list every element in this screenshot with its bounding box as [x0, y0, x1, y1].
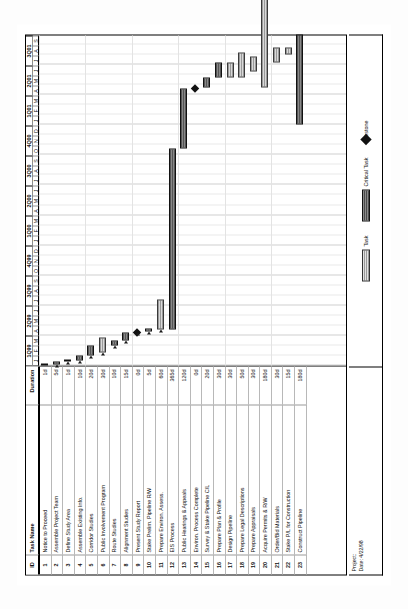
row-id: 14	[191, 554, 203, 574]
table-row[interactable]: 17Design Pipeline30d	[226, 366, 238, 574]
table-row[interactable]: 22Stake P/L for Construction15d	[283, 366, 295, 574]
row-task-name: Assemble Project Team	[52, 404, 64, 554]
table-row[interactable]: 19Prepare Appraisals30d	[249, 366, 261, 574]
gantt-bar[interactable]	[122, 332, 129, 340]
gridline-horizontal	[85, 35, 86, 365]
row-task-name: Survey & Stake Pipeline C/L	[202, 404, 214, 554]
legend-label-task: Task	[363, 235, 369, 246]
table-row[interactable]: 1Notice to Proceed1d	[40, 366, 52, 574]
gantt-bar[interactable]	[296, 34, 303, 124]
table-row[interactable]: 13Public Hearings & Appeals120d	[179, 366, 191, 574]
gantt-bar[interactable]	[285, 47, 292, 55]
row-id: 22	[283, 554, 295, 574]
row-duration: 30d	[249, 366, 261, 404]
row-id: 5	[86, 554, 98, 574]
table-row[interactable]: 6Public Involvement Program30d	[98, 366, 110, 574]
row-id: 3	[63, 554, 75, 574]
critical-task-bar-swatch	[362, 189, 370, 221]
gantt-bar[interactable]	[169, 148, 176, 329]
chart-area: ID Task Name Duration 1Notice to Proceed…	[25, 34, 347, 575]
row-duration: 365d	[168, 366, 180, 404]
table-body: 1Notice to Proceed1d2Assemble Project Te…	[40, 366, 307, 574]
legend-item-critical-task: Critical Task	[362, 157, 370, 221]
gantt-bar[interactable]	[250, 56, 257, 71]
row-task-name: Order/Bid Materials	[272, 404, 284, 554]
page-frame: ID Task Name Duration 1Notice to Proceed…	[0, 0, 408, 609]
project-info: Project: Date: 4/22/98	[349, 366, 382, 574]
task-bar-swatch	[362, 249, 370, 281]
row-id: 6	[98, 554, 110, 574]
table-row[interactable]: 23Construct Pipeline180d	[295, 366, 307, 574]
dependency-arrow	[101, 352, 105, 355]
project-label: Project:	[351, 370, 358, 571]
row-duration: 120d	[179, 366, 191, 404]
gantt-bar[interactable]	[261, 0, 268, 87]
row-duration: 20d	[86, 366, 98, 404]
table-row[interactable]: 9Present Study Report0d	[133, 366, 145, 574]
table-row[interactable]: 7Route Studies10d	[110, 366, 122, 574]
table-row[interactable]: 11Prepare Environ. Assess.60d	[156, 366, 168, 574]
table-header-row: ID Task Name Duration	[26, 366, 40, 574]
timeline: 1Q992Q993Q994Q991Q002Q003Q004Q001Q012Q01…	[26, 35, 346, 365]
row-id: 9	[133, 554, 145, 574]
gantt-bar[interactable]	[157, 299, 164, 329]
dependency-arrow	[66, 361, 70, 364]
legend-item-milestone: Milestone	[363, 120, 369, 143]
table-row[interactable]: 20Acquire Permits & R/W180d	[260, 366, 272, 574]
row-task-name: Define Study Area	[63, 404, 75, 554]
gridline-horizontal	[178, 35, 179, 365]
gantt-bar[interactable]	[87, 345, 94, 355]
gantt-bar[interactable]	[111, 340, 118, 345]
row-task-name: Prepare Plan & Profile	[214, 404, 226, 554]
row-task-name: Corridor Studies	[86, 404, 98, 554]
table-row[interactable]: 14Environ. Process Complete0d	[191, 366, 203, 574]
row-duration: 30d	[272, 366, 284, 404]
table-row[interactable]: 15Survey & Stake Pipeline C/L20d	[202, 366, 214, 574]
row-duration: 20d	[202, 366, 214, 404]
table-row[interactable]: 5Corridor Studies20d	[86, 366, 98, 574]
gantt-bar[interactable]	[203, 77, 210, 87]
gantt-bar[interactable]	[273, 47, 280, 62]
table-row[interactable]: 8Alignment Studies15d	[121, 366, 133, 574]
project-date: Date: 4/22/98	[358, 370, 365, 571]
row-duration: 180d	[295, 366, 307, 404]
gantt-bar[interactable]	[215, 62, 222, 77]
timeline-body	[39, 35, 346, 365]
table-row[interactable]: 18Prepare Legal Descriptions50d	[237, 366, 249, 574]
row-task-name: EIS Process	[168, 404, 180, 554]
gantt-bar[interactable]	[238, 52, 245, 77]
milestone-marker[interactable]	[191, 84, 199, 92]
table-row[interactable]: 16Prepare Plan & Profile30d	[214, 366, 226, 574]
table-row[interactable]: 10Stake Prelim. Pipeline R/W5d	[144, 366, 156, 574]
gantt-sheet: ID Task Name Duration 1Notice to Proceed…	[17, 24, 391, 585]
row-task-name: Notice to Proceed	[40, 404, 52, 554]
gantt-bar[interactable]	[227, 62, 234, 77]
gantt-bar[interactable]	[41, 363, 48, 365]
row-id: 15	[202, 554, 214, 574]
row-duration: 50d	[237, 366, 249, 404]
table-row[interactable]: 21Order/Bid Materials30d	[272, 366, 284, 574]
column-header-id: ID	[26, 554, 39, 574]
table-row[interactable]: 4Assemble Existing Info.10d	[75, 366, 87, 574]
gantt-bar[interactable]	[76, 355, 83, 360]
row-duration: 5d	[144, 366, 156, 404]
gridline-horizontal	[132, 35, 133, 365]
row-task-name: Route Studies	[110, 404, 122, 554]
footer: Project: Date: 4/22/98 Task Critical Tas…	[349, 34, 383, 575]
row-id: 4	[75, 554, 87, 574]
column-header-name: Task Name	[26, 404, 39, 554]
table-row[interactable]: 2Assemble Project Team5d	[52, 366, 64, 574]
table-row[interactable]: 12EIS Process365d	[168, 366, 180, 574]
row-task-name: Alignment Studies	[121, 404, 133, 554]
gantt-bar[interactable]	[180, 88, 187, 148]
gantt-bar[interactable]	[99, 337, 106, 352]
row-task-name: Acquire Permits & R/W	[260, 404, 272, 554]
row-task-name: Environ. Process Complete	[191, 404, 203, 554]
row-duration: 30d	[226, 366, 238, 404]
row-task-name: Prepare Legal Descriptions	[237, 404, 249, 554]
row-task-name: Stake Prelim. Pipeline R/W	[144, 404, 156, 554]
table-row[interactable]: 3Define Study Area1d	[63, 366, 75, 574]
gridline-horizontal	[225, 35, 226, 365]
row-duration: 30d	[98, 366, 110, 404]
gridline-horizontal	[39, 35, 40, 365]
